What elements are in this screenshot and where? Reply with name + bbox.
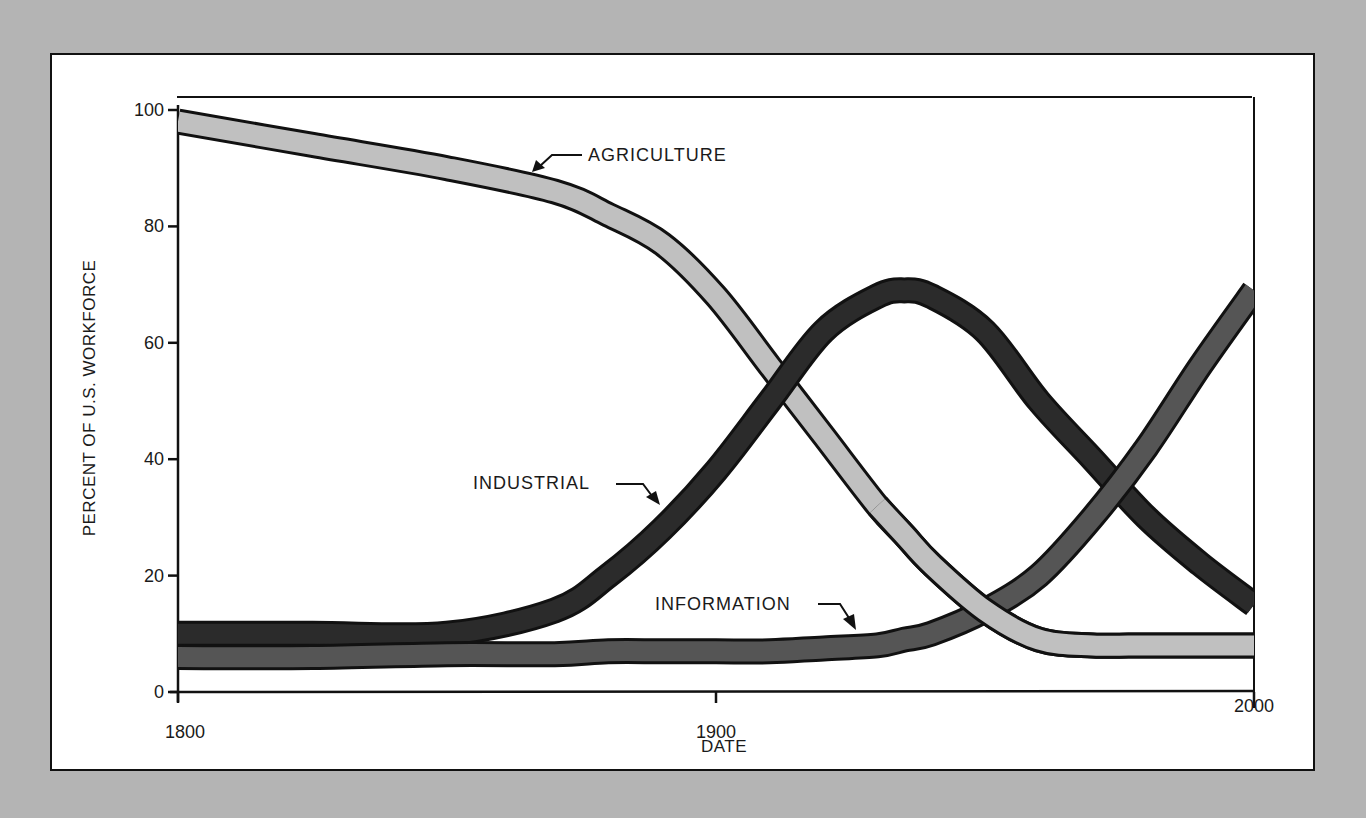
x-axis	[170, 691, 1254, 692]
y-tick-label: 0	[154, 682, 164, 702]
annotation-information: INFORMATION	[655, 594, 856, 630]
y-tick-label: 40	[144, 449, 164, 469]
y-ticks: 020406080100	[134, 100, 178, 702]
annotation-agriculture: AGRICULTURE	[532, 145, 727, 172]
y-tick-label: 80	[144, 216, 164, 236]
series-bands	[178, 122, 1254, 658]
y-tick-label: 60	[144, 333, 164, 353]
x-tick-label: 1800	[165, 722, 205, 742]
arrow-agriculture-icon	[540, 155, 582, 166]
y-tick-label: 20	[144, 566, 164, 586]
annotation-industrial: INDUSTRIAL	[473, 473, 660, 505]
arrowhead-industrial-icon	[646, 491, 660, 505]
chart-canvas: 020406080100 180019002000 PERCENT OF U.S…	[0, 0, 1366, 818]
arrowhead-information-icon	[843, 614, 856, 630]
plot-area	[170, 97, 1254, 708]
arrow-industrial-icon	[616, 484, 652, 496]
arrow-information-icon	[818, 604, 849, 618]
x-axis-title: DATE	[701, 737, 747, 756]
x-ticks: 180019002000	[165, 692, 1274, 742]
y-axis-title: PERCENT OF U.S. WORKFORCE	[80, 260, 99, 537]
label-industrial: INDUSTRIAL	[473, 473, 590, 493]
y-tick-label: 100	[134, 100, 164, 120]
label-agriculture: AGRICULTURE	[588, 145, 727, 165]
x-tick-label: 2000	[1234, 696, 1274, 716]
band-industrial	[178, 290, 1254, 635]
band-agriculture	[178, 122, 1254, 646]
label-information: INFORMATION	[655, 594, 791, 614]
arrowhead-agriculture-icon	[532, 160, 545, 172]
